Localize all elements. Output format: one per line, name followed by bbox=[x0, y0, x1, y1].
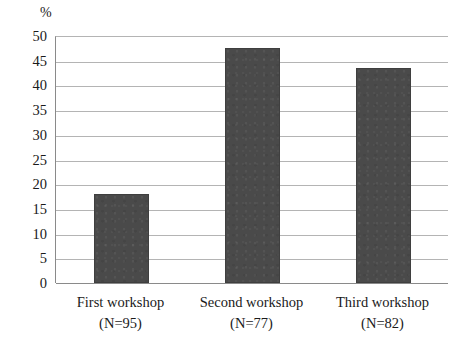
y-tick-label: 20 bbox=[13, 177, 47, 192]
y-tick-label: 0 bbox=[13, 276, 47, 291]
x-axis-label-sample-size: (N=82) bbox=[293, 313, 469, 334]
bar-chart-figure: % 50 45 40 35 30 25 20 15 10 5 0 First w… bbox=[0, 0, 469, 345]
y-axis-unit-label: % bbox=[40, 6, 52, 20]
y-tick-label: 15 bbox=[13, 202, 47, 217]
x-axis-label-group: Third workshop (N=82) bbox=[293, 292, 469, 333]
y-tick-label: 25 bbox=[13, 152, 47, 167]
y-tick-label: 40 bbox=[13, 78, 47, 93]
y-tick-label: 30 bbox=[13, 128, 47, 143]
bar-first-workshop bbox=[94, 194, 149, 283]
y-tick-label: 35 bbox=[13, 103, 47, 118]
y-tick-label: 50 bbox=[13, 29, 47, 44]
bar-third-workshop bbox=[356, 68, 411, 283]
y-tick-label: 10 bbox=[13, 226, 47, 241]
plot-area bbox=[55, 36, 448, 283]
x-axis-label-name: Third workshop bbox=[293, 292, 469, 313]
bar-second-workshop bbox=[225, 48, 280, 283]
y-tick-label: 45 bbox=[13, 53, 47, 68]
y-tick-label: 5 bbox=[13, 251, 47, 266]
